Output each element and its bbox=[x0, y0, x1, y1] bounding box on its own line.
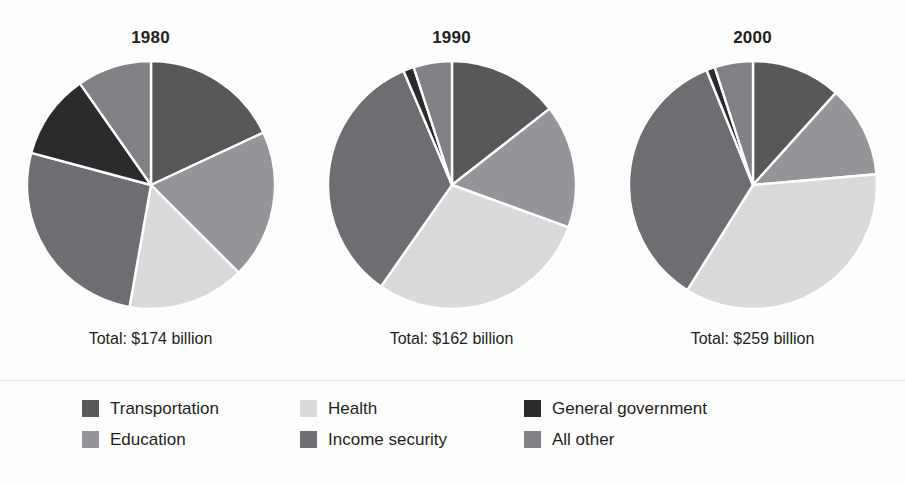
charts-row: 1980Total: $174 billion1990Total: $162 b… bbox=[0, 0, 905, 378]
legend-swatch-all_other bbox=[524, 431, 541, 448]
legend-column-2: General governmentAll other bbox=[524, 386, 824, 484]
legend-label-all_other: All other bbox=[552, 430, 614, 449]
legend-item-education[interactable]: Education bbox=[82, 424, 300, 455]
pie-2000 bbox=[627, 59, 879, 311]
chart-total-label: Total: $259 billion bbox=[691, 329, 815, 349]
legend-divider bbox=[0, 380, 905, 381]
legend-swatch-education bbox=[82, 431, 99, 448]
legend-label-transportation: Transportation bbox=[110, 399, 219, 418]
pie-chart-figure: 1980Total: $174 billion1990Total: $162 b… bbox=[0, 0, 905, 484]
chart-title: 1990 bbox=[432, 28, 471, 48]
chart-title: 2000 bbox=[733, 28, 772, 48]
pie-svg bbox=[326, 59, 578, 311]
chart-total-label: Total: $174 billion bbox=[89, 329, 213, 349]
legend-swatch-transportation bbox=[82, 400, 99, 417]
legend-column-1: HealthIncome security bbox=[300, 386, 524, 484]
pie-1990 bbox=[326, 59, 578, 311]
legend-item-transportation[interactable]: Transportation bbox=[82, 393, 300, 424]
pie-svg bbox=[25, 59, 277, 311]
legend-swatch-general_government bbox=[524, 400, 541, 417]
chart-total-label: Total: $162 billion bbox=[390, 329, 514, 349]
legend-item-health[interactable]: Health bbox=[300, 393, 524, 424]
legend-column-0: TransportationEducation bbox=[82, 386, 300, 484]
chart-cell-1990: 1990Total: $162 billion bbox=[301, 0, 602, 378]
legend-item-all_other[interactable]: All other bbox=[524, 424, 824, 455]
legend-item-general_government[interactable]: General government bbox=[524, 393, 824, 424]
chart-cell-2000: 2000Total: $259 billion bbox=[602, 0, 903, 378]
legend-swatch-income_security bbox=[300, 431, 317, 448]
chart-cell-1980: 1980Total: $174 billion bbox=[0, 0, 301, 378]
pie-svg bbox=[627, 59, 879, 311]
pie-1980 bbox=[25, 59, 277, 311]
legend-swatch-health bbox=[300, 400, 317, 417]
legend-label-health: Health bbox=[328, 399, 377, 418]
legend-label-general_government: General government bbox=[552, 399, 707, 418]
legend-label-income_security: Income security bbox=[328, 430, 447, 449]
chart-title: 1980 bbox=[131, 28, 170, 48]
chart-legend: TransportationEducationHealthIncome secu… bbox=[0, 386, 905, 484]
legend-item-income_security[interactable]: Income security bbox=[300, 424, 524, 455]
legend-label-education: Education bbox=[110, 430, 186, 449]
